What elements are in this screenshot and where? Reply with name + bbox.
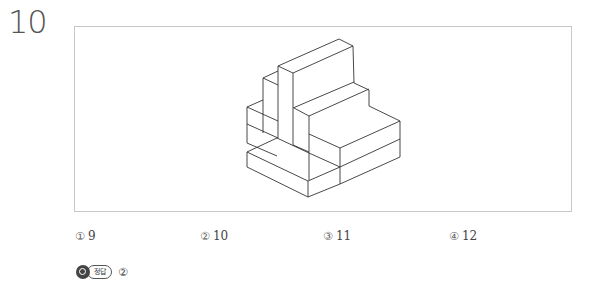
answer-row: 정답 ②: [76, 264, 128, 280]
option-3-mark: ③: [323, 230, 333, 243]
option-2-value: 10: [213, 229, 228, 243]
option-1-mark: ①: [75, 230, 85, 243]
answer-label-badge: 정답: [87, 265, 112, 279]
magnifier-icon: [76, 265, 90, 279]
option-4[interactable]: ④12: [449, 229, 477, 243]
block-figure: [0, 0, 598, 293]
option-4-value: 12: [462, 229, 477, 243]
option-2-mark: ②: [200, 230, 210, 243]
option-1[interactable]: ①9: [75, 229, 96, 243]
option-3[interactable]: ③11: [323, 229, 351, 243]
option-1-value: 9: [88, 229, 96, 243]
answer-value: ②: [118, 266, 128, 279]
option-2[interactable]: ②10: [200, 229, 228, 243]
option-4-mark: ④: [449, 230, 459, 243]
option-3-value: 11: [336, 229, 351, 243]
